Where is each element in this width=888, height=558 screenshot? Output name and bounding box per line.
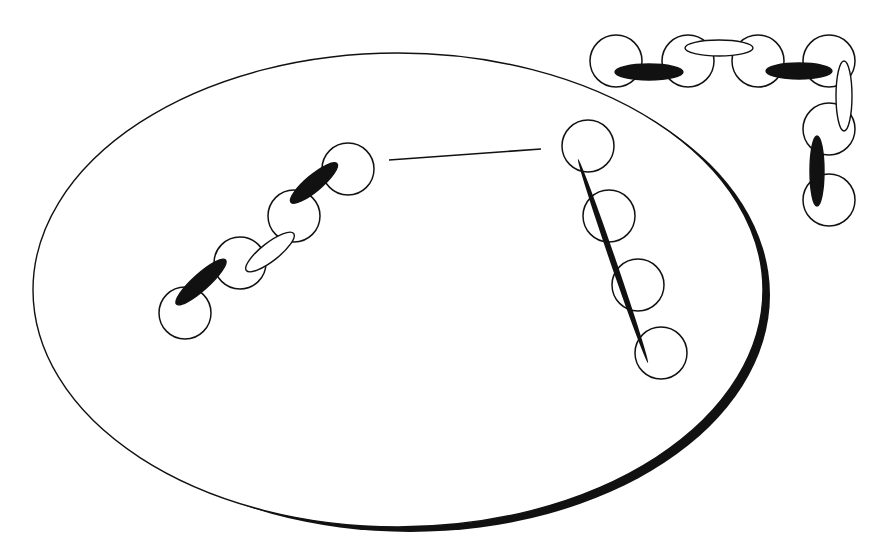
molecular-chain-diagram [0, 0, 888, 558]
filled-link-ellipse [810, 136, 824, 206]
diagram-canvas [0, 0, 888, 558]
subunit-circle [635, 327, 687, 379]
open-link-ellipse [836, 61, 852, 131]
filled-link-ellipse [615, 64, 683, 80]
filled-link-ellipse [766, 63, 832, 79]
open-link-ellipse [685, 40, 753, 56]
subunit-circle [562, 120, 614, 172]
